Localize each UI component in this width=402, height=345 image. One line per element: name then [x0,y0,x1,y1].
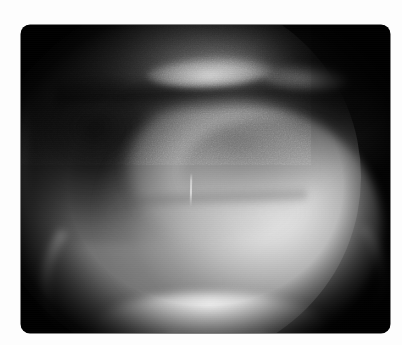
film-grain-overlay [21,25,311,165]
collimation-rim-lower-right [128,155,390,333]
collimation-rim-lower-left [21,152,307,333]
mid-field-tissue-border [117,186,308,211]
radiograph-viewer[interactable] [0,0,402,345]
disc-bottom-highlight [95,293,325,333]
radiopaque-device-line [190,173,193,207]
film-frame[interactable] [21,25,390,333]
